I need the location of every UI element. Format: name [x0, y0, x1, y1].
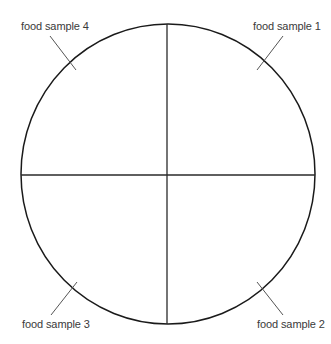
label-food-sample-3: food sample 3 [22, 318, 90, 331]
leader-line-sample-4 [50, 36, 76, 70]
label-food-sample-4: food sample 4 [21, 20, 89, 33]
leader-line-sample-3 [51, 282, 77, 315]
outer-circle [21, 24, 315, 324]
leader-line-sample-1 [257, 36, 283, 70]
quartered-circle-diagram [0, 0, 331, 344]
label-food-sample-1: food sample 1 [253, 20, 321, 33]
leader-line-sample-2 [257, 282, 283, 315]
label-food-sample-2: food sample 2 [257, 318, 325, 331]
